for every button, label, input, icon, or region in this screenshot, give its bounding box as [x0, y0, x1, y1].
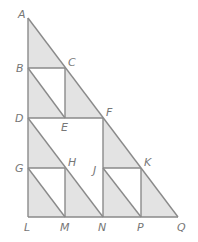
- label-P: P: [137, 221, 144, 234]
- label-K: K: [144, 156, 152, 169]
- label-N: N: [98, 221, 106, 234]
- label-L: L: [24, 221, 30, 234]
- label-E: E: [61, 121, 68, 134]
- label-M: M: [60, 221, 70, 234]
- triangle-subdivision-diagram: A B C D E F G H J K L M N P Q: [0, 0, 198, 242]
- segments: [28, 18, 178, 217]
- label-Q: Q: [177, 221, 186, 234]
- label-F: F: [106, 106, 113, 119]
- label-A: A: [17, 8, 26, 21]
- label-J: J: [91, 164, 96, 177]
- label-C: C: [68, 56, 76, 69]
- label-D: D: [15, 112, 23, 125]
- label-G: G: [15, 162, 24, 175]
- label-H: H: [68, 156, 76, 169]
- label-B: B: [16, 62, 24, 75]
